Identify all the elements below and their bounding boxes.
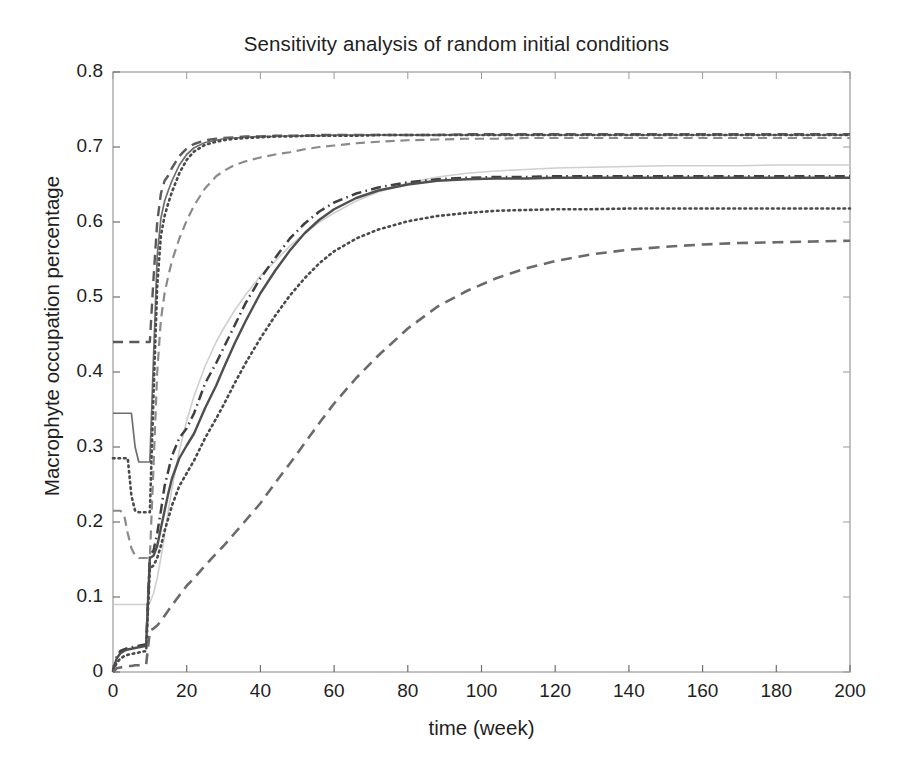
data-series-group: [113, 134, 850, 672]
series-line: [113, 138, 850, 558]
plot-frame: [113, 72, 850, 672]
x-tick-label: 120: [515, 680, 595, 702]
series-line: [113, 135, 850, 462]
y-tick-label: 0.1: [15, 585, 103, 607]
x-tick-label: 0: [73, 680, 153, 702]
y-tick-label: 0.2: [15, 510, 103, 532]
y-tick-label: 0.4: [15, 360, 103, 382]
x-tick-label: 80: [368, 680, 448, 702]
series-line: [113, 178, 850, 670]
y-tick-label: 0.6: [15, 210, 103, 232]
series-line: [113, 241, 850, 672]
series-line: [113, 165, 850, 605]
x-tick-label: 40: [220, 680, 300, 702]
y-tick-label: 0: [15, 660, 103, 682]
y-tick-label: 0.5: [15, 285, 103, 307]
series-line: [113, 209, 850, 671]
y-tick-label: 0.3: [15, 435, 103, 457]
plot-area: [0, 0, 913, 770]
x-tick-label: 20: [147, 680, 227, 702]
x-tick-label: 180: [736, 680, 816, 702]
y-tick-label: 0.8: [15, 60, 103, 82]
x-tick-label: 60: [294, 680, 374, 702]
x-tick-label: 200: [810, 680, 890, 702]
x-tick-label: 160: [663, 680, 743, 702]
x-tick-label: 100: [442, 680, 522, 702]
x-tick-label: 140: [589, 680, 669, 702]
axis-ticks: [113, 72, 850, 672]
series-line: [113, 135, 850, 512]
series-line: [113, 176, 850, 672]
chart-page: Sensitivity analysis of random initial c…: [0, 0, 913, 770]
y-tick-label: 0.7: [15, 135, 103, 157]
